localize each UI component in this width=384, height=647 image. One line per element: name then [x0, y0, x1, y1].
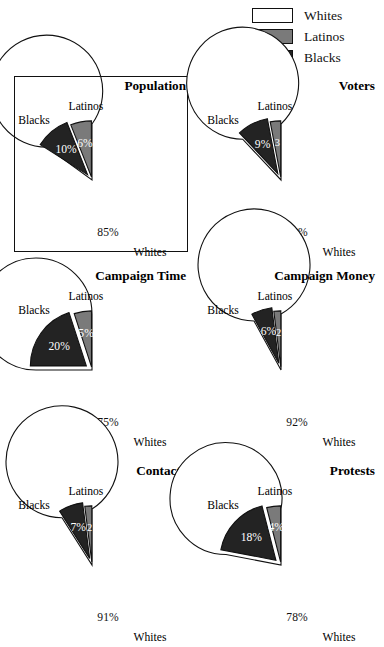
pie-chart-protests: ProtestsLatinosBlacksWhites78%4%18% [189, 461, 379, 647]
value-label-whites: 92% [286, 416, 308, 429]
legend-swatch-whites [252, 8, 293, 23]
legend-label-blacks: Blacks [304, 51, 341, 65]
value-label-whites: 78% [286, 611, 308, 624]
chart-grid: PopulationLatinosBlacksWhites85%6%10% Vo… [0, 76, 384, 642]
chart-title: Campaign Money [274, 268, 375, 283]
group-label-whites: Whites [323, 631, 356, 644]
group-label-whites: Whites [323, 436, 356, 449]
pie-chart-campaign-money: Campaign MoneyLatinosBlacksWhites92%26% [189, 266, 379, 456]
group-label-latinos: Latinos [69, 100, 104, 113]
value-label-whites: 85% [97, 226, 119, 239]
group-label-whites: Whites [134, 246, 167, 259]
legend-label-whites: Whites [304, 9, 342, 23]
value-label-latinos: 2 [276, 327, 281, 338]
group-label-latinos: Latinos [258, 290, 293, 303]
group-label-latinos: Latinos [258, 100, 293, 113]
value-label-whites: 91% [97, 611, 119, 624]
pie-svg-contacts: ContactsLatinosBlacksWhites91%27% [0, 461, 190, 647]
group-label-whites: Whites [323, 246, 356, 259]
value-label-blacks: 9% [255, 138, 271, 151]
chart-title: Population [124, 78, 186, 93]
pie-svg-protests: ProtestsLatinosBlacksWhites78%4%18% [189, 461, 379, 647]
value-label-blacks: 10% [55, 143, 77, 156]
group-label-whites: Whites [134, 631, 167, 644]
value-label-latinos: 2 [87, 522, 92, 533]
pie-chart-contacts: ContactsLatinosBlacksWhites91%27% [0, 461, 190, 647]
value-label-blacks: 6% [261, 325, 277, 338]
value-label-latinos: 3 [275, 137, 280, 148]
pie-svg-campaign-money: Campaign MoneyLatinosBlacksWhites92%26% [189, 266, 379, 456]
pie-slice-whites [198, 209, 310, 370]
chart-title: Protests [330, 463, 375, 478]
pie-svg-population: PopulationLatinosBlacksWhites85%6%10% [0, 76, 190, 266]
chart-title: Campaign Time [95, 268, 186, 283]
chart-title: Voters [339, 78, 375, 93]
value-label-blacks: 20% [49, 340, 71, 353]
legend-label-latinos: Latinos [304, 30, 345, 44]
group-label-blacks: Blacks [18, 499, 50, 512]
value-label-latinos: 5% [78, 327, 94, 340]
value-label-blacks: 18% [241, 531, 263, 544]
group-label-latinos: Latinos [258, 485, 293, 498]
group-label-blacks: Blacks [207, 114, 239, 127]
group-label-blacks: Blacks [18, 114, 50, 127]
group-label-latinos: Latinos [69, 485, 104, 498]
legend-item-whites: Whites [252, 6, 378, 25]
value-label-latinos: 4% [269, 521, 285, 534]
value-label-blacks: 7% [70, 521, 86, 534]
group-label-whites: Whites [134, 436, 167, 449]
pie-chart-population: PopulationLatinosBlacksWhites85%6%10% [0, 76, 190, 266]
group-label-blacks: Blacks [18, 304, 50, 317]
value-label-latinos: 6% [77, 137, 93, 150]
group-label-blacks: Blacks [207, 304, 239, 317]
group-label-blacks: Blacks [207, 499, 239, 512]
group-label-latinos: Latinos [69, 290, 104, 303]
